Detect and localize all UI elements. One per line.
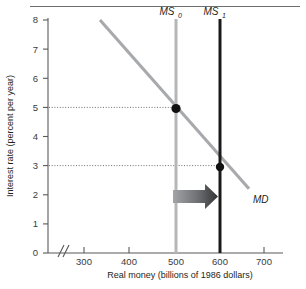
y-tick-label-3: 3	[33, 160, 38, 171]
ms0-label: MS 0	[160, 6, 183, 19]
y-tick-label-5: 5	[33, 102, 38, 113]
chart-canvas: 0 1 2 3 4 5 6 7 8 300 400 500 600 700 Re…	[0, 0, 306, 289]
x-axis-tick-labels: 300 400 500 600 700	[76, 256, 272, 267]
money-market-figure: 0 1 2 3 4 5 6 7 8 300 400 500 600 700 Re…	[0, 0, 306, 289]
ms1-label: MS 1	[204, 6, 227, 19]
y-tick-label-4: 4	[33, 131, 38, 142]
x-axis-title: Real money (billions of 1986 dollars)	[107, 270, 253, 280]
x-tick-label-600: 600	[212, 256, 228, 267]
y-tick-label-8: 8	[33, 14, 38, 25]
shift-arrow	[173, 184, 218, 209]
y-tick-label-0: 0	[33, 247, 38, 258]
x-tick-label-300: 300	[76, 256, 92, 267]
x-axis-ticks	[84, 247, 264, 253]
y-axis-ticks	[43, 20, 48, 253]
ms1-label-text: MS	[204, 6, 219, 17]
y-tick-label-2: 2	[33, 189, 38, 200]
ms1-label-subscript: 1	[222, 12, 226, 19]
x-tick-label-700: 700	[256, 256, 272, 267]
x-tick-label-500: 500	[168, 256, 184, 267]
x-axis-break-mark-1	[58, 245, 64, 257]
ms0-label-subscript: 0	[178, 12, 182, 19]
shift-arrow-shape	[173, 184, 218, 209]
ms0-label-text: MS	[160, 6, 175, 17]
guide-lines	[49, 107, 220, 165]
equilibrium-new-dot[interactable]	[216, 163, 224, 171]
md-label: MD	[253, 194, 269, 205]
y-tick-label-1: 1	[33, 218, 38, 229]
y-tick-label-6: 6	[33, 73, 38, 84]
y-tick-label-7: 7	[33, 44, 38, 55]
x-tick-label-400: 400	[121, 256, 137, 267]
y-axis-title: Interest rate (percent per year)	[5, 75, 15, 197]
axes	[48, 18, 283, 257]
equilibrium-initial-dot[interactable]	[171, 104, 180, 113]
y-axis-tick-labels: 0 1 2 3 4 5 6 7 8	[33, 14, 38, 258]
x-axis-break-mark-2	[63, 245, 69, 257]
